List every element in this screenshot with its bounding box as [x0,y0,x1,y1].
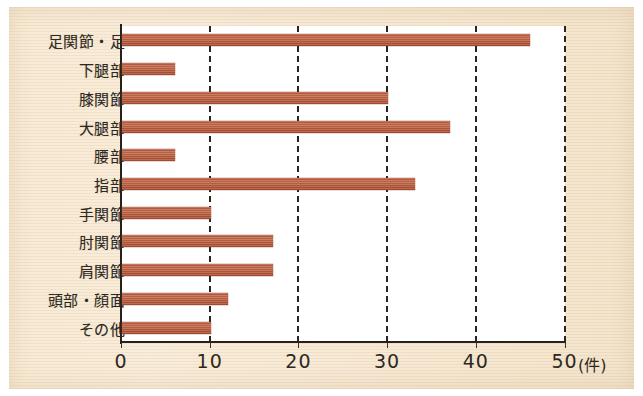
x-tick-label-20: 20 [285,350,311,372]
bar [122,293,228,305]
bar [122,207,211,219]
bar [122,235,273,247]
bar [122,264,273,276]
category-label: 手関節 [79,202,126,223]
x-tickmark-50 [565,343,566,348]
x-tick-label-40: 40 [463,350,489,372]
category-label: その他 [79,317,126,338]
category-label: 下腿部 [79,59,126,80]
bar-row: その他 [0,313,643,342]
x-axis-unit-label: (件) [578,352,606,376]
bar-row: 足関節・足 [0,26,643,55]
x-tickmark-0 [121,343,122,348]
category-label: 足関節・足 [48,30,126,51]
category-label: 腰部 [94,145,125,166]
x-tick-label-0: 0 [114,350,127,372]
x-tickmark-10 [210,343,211,348]
bar [122,34,530,46]
bar [122,149,175,161]
bar [122,322,211,334]
bar-row: 肩関節 [0,256,643,285]
bar-row: 膝関節 [0,83,643,112]
bar-row: 下腿部 [0,55,643,84]
category-label: 肘関節 [79,231,126,252]
bar-row: 大腿部 [0,112,643,141]
x-tick-label-50: 50 [551,350,577,372]
x-tick-label-30: 30 [374,350,400,372]
bar-row: 手関節 [0,198,643,227]
bar-row: 腰部 [0,141,643,170]
bar-row: 頭部・顔面 [0,285,643,314]
bar-row: 肘関節 [0,227,643,256]
x-tick-label-10: 10 [197,350,223,372]
x-tickmark-40 [476,343,477,348]
bar [122,121,450,133]
category-label: 大腿部 [79,116,126,137]
bar-chart-figure: 足関節・足下腿部膝関節大腿部腰部指部手関節肘関節肩関節頭部・顔面その他 0102… [0,0,643,396]
category-label: 頭部・顔面 [48,288,126,309]
x-tickmark-20 [298,343,299,348]
bar-rows: 足関節・足下腿部膝関節大腿部腰部指部手関節肘関節肩関節頭部・顔面その他 [0,26,643,342]
category-label: 膝関節 [79,87,126,108]
bar [122,92,388,104]
bar [122,63,175,75]
bar-row: 指部 [0,170,643,199]
category-label: 指部 [94,173,125,194]
x-tickmark-30 [387,343,388,348]
category-label: 肩関節 [79,260,126,281]
bar [122,178,415,190]
